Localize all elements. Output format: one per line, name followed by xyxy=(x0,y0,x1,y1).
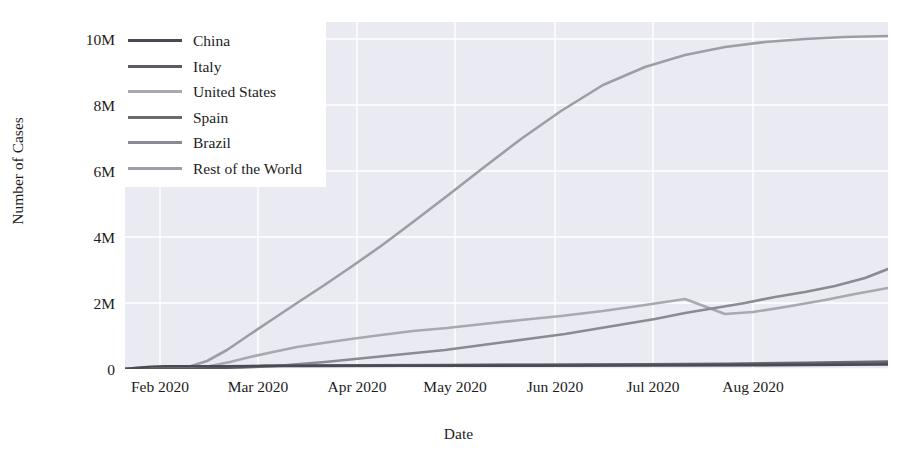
series-line-brazil xyxy=(125,269,888,369)
legend-swatch-spain-icon xyxy=(128,116,182,119)
legend-swatch-china-icon xyxy=(128,39,182,42)
legend-swatch-italy-icon xyxy=(128,65,182,68)
series-line-united-states xyxy=(125,288,888,369)
legend-label-rest-of-the-world: Rest of the World xyxy=(193,161,302,177)
y-tick-label-5: 10M xyxy=(86,32,115,48)
legend-label-spain: Spain xyxy=(193,110,228,126)
x-tick-label-2: Apr 2020 xyxy=(328,378,387,396)
legend-item-italy[interactable]: Italy xyxy=(120,54,326,80)
legend-label-italy: Italy xyxy=(193,59,221,75)
y-tick-label-2: 4M xyxy=(93,230,115,246)
x-tick-label-1: Mar 2020 xyxy=(228,378,289,396)
x-tick-label-0: Feb 2020 xyxy=(131,378,189,396)
x-tick-label-3: May 2020 xyxy=(423,378,486,396)
x-axis-tick-labels: Feb 2020 Mar 2020 Apr 2020 May 2020 Jun … xyxy=(0,378,917,402)
legend-item-spain[interactable]: Spain xyxy=(120,105,326,131)
x-tick-label-4: Jun 2020 xyxy=(527,378,583,396)
legend-item-china[interactable]: China xyxy=(120,28,326,54)
chart-legend: China Italy United States Spain Brazil R… xyxy=(120,22,326,187)
y-tick-label-3: 6M xyxy=(93,164,115,180)
legend-label-united-states: United States xyxy=(193,84,276,100)
y-tick-label-1: 2M xyxy=(93,296,115,312)
x-axis-title: Date xyxy=(0,425,917,443)
chart-figure: Number of Cases 0 2M 4M 6M 8M 10M xyxy=(0,0,917,471)
legend-label-china: China xyxy=(193,33,230,49)
legend-swatch-brazil-icon xyxy=(128,141,182,144)
legend-item-united-states[interactable]: United States xyxy=(120,79,326,105)
x-tick-label-6: Aug 2020 xyxy=(722,378,784,396)
legend-item-rest-of-the-world[interactable]: Rest of the World xyxy=(120,156,326,182)
legend-swatch-rest-of-the-world-icon xyxy=(128,167,182,170)
legend-swatch-united-states-icon xyxy=(128,90,182,93)
y-tick-label-0: 0 xyxy=(107,362,115,378)
legend-label-brazil: Brazil xyxy=(193,135,231,151)
x-tick-label-5: Jul 2020 xyxy=(627,378,680,396)
y-tick-label-4: 8M xyxy=(93,98,115,114)
legend-item-brazil[interactable]: Brazil xyxy=(120,130,326,156)
